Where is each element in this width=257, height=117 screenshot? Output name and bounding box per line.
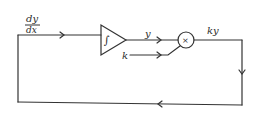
multiplier-output-label: ky	[207, 25, 219, 36]
integrator-symbol: ∫	[104, 34, 110, 47]
input-numerator-label: dy	[26, 13, 38, 24]
input-denominator-label: dx	[26, 25, 37, 35]
multiplier-symbol: ×	[182, 36, 189, 45]
constant-label: k	[122, 50, 128, 61]
block-diagram: dy dx ∫ y k × ky	[0, 0, 257, 117]
integrator-output-label: y	[144, 28, 151, 39]
diagram-svg: dy dx ∫ y k × ky	[0, 0, 257, 117]
feedback-bottom-wire	[18, 102, 242, 105]
constant-input-wire	[130, 46, 180, 55]
